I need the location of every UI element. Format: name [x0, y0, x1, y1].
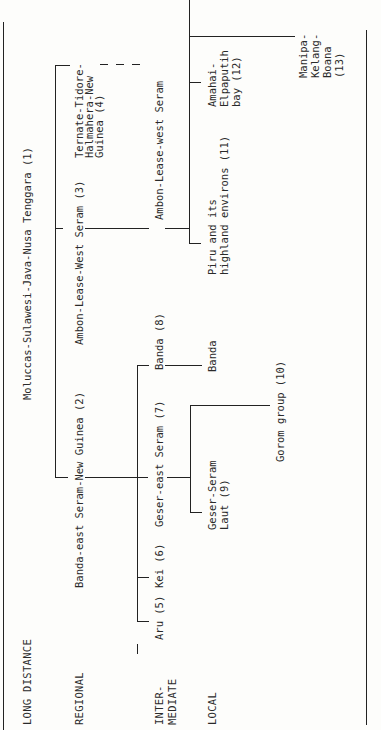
- node-2-banda-east-seram: Banda-east Seram-New Guinea (2): [73, 392, 86, 588]
- local-tick-9: [190, 512, 202, 513]
- left-border-line: [3, 22, 4, 730]
- dashed-connector-4: [100, 64, 108, 65]
- dashed-connector-5: [137, 644, 138, 654]
- dashed-connector-4c: [132, 64, 140, 65]
- level-label-regional: REGIONAL: [73, 672, 86, 725]
- node-11-line2: highland environs (11): [218, 136, 231, 275]
- intermediate-tick-8: [137, 365, 149, 366]
- connector-3-to-ambon: [85, 228, 149, 229]
- node-3-ambon-lease: Ambon-Lease-West Seram (3): [73, 181, 86, 345]
- node-11-line1: Piru and its: [206, 199, 219, 275]
- node-10-gorom: Gorom group (10): [274, 361, 287, 462]
- intermediate-tick-6: [137, 577, 149, 578]
- node-12-line1: Amahai-: [206, 63, 219, 107]
- level-label-local: LOCAL: [206, 692, 219, 725]
- node-banda-local: Banda: [206, 340, 219, 372]
- connector-7-to-local: [167, 477, 190, 478]
- intermediate-tick-5: [137, 621, 149, 622]
- node-9-line1: Geser-Seram: [206, 460, 219, 530]
- node-9-line2: Laut (9): [218, 479, 231, 530]
- level-label-intermediate-1: INTER-: [153, 685, 166, 725]
- node-12-line3: bay (12): [230, 56, 243, 107]
- intermediate-bracket-line: [137, 365, 138, 622]
- node-8-banda: Banda (8): [153, 313, 166, 370]
- node-1-moluccas: Moluccas-Sulawesi-Java-Nusa Tenggara (1): [21, 147, 34, 400]
- regional-tick-3: [55, 228, 63, 229]
- node-5-aru: Aru (5): [153, 596, 166, 640]
- node-7-geser-east-seram: Geser-east Seram (7): [153, 401, 166, 527]
- connector-to-gorom: [190, 405, 270, 406]
- node-ambon-intermediate: Ambon-Lease-west Seram: [153, 81, 166, 220]
- level-label-long-distance: LONG DISTANCE: [21, 639, 34, 725]
- local-tick-11: [189, 243, 201, 244]
- connector-8-to-banda: [165, 365, 202, 366]
- hierarchy-diagram: LONG DISTANCE REGIONAL INTER- MEDIATE LO…: [0, 0, 381, 730]
- node-12-line2: Elpaputih: [218, 50, 231, 107]
- connector-ambon-to-local: [165, 228, 189, 229]
- connector-2-to-7: [85, 477, 148, 478]
- node-13-line1: Manipa-: [297, 34, 310, 78]
- regional-bracket-line: [55, 65, 56, 478]
- local-tick-12: [189, 82, 201, 83]
- node-13-line3: Boana: [321, 46, 334, 78]
- node-13-line2: Kelang-: [309, 34, 322, 78]
- node-13-line4: (13): [333, 53, 346, 78]
- dashed-connector-4b: [116, 64, 124, 65]
- node-4-ternate-line3: Guinea (4): [93, 95, 106, 158]
- regional-tick-4: [55, 65, 70, 66]
- connector-2-to-intermediate: [55, 477, 68, 478]
- connector-to-13: [189, 36, 295, 37]
- node-6-kei: Kei (6): [153, 544, 166, 588]
- local-bracket-geser-line: [190, 405, 191, 513]
- level-label-intermediate-2: MEDIATE: [166, 679, 179, 725]
- right-border-line: [366, 30, 367, 725]
